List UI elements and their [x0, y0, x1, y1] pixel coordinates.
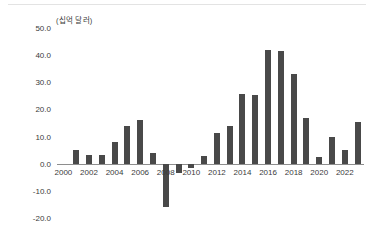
bar-2016 — [265, 50, 271, 164]
x-axis-tick-label: 2014 — [234, 168, 252, 177]
x-axis-tick-label: 2012 — [208, 168, 226, 177]
chart-figure: (십억 달러) 50.040.030.020.010.00.0-10.0-20.… — [0, 0, 374, 252]
bar-2011 — [201, 156, 207, 164]
x-axis-tick-label: 2022 — [336, 168, 354, 177]
plot-area: 50.040.030.020.010.00.0-10.0-20.02000200… — [57, 28, 364, 218]
x-axis-tick-label: 2008 — [157, 168, 175, 177]
y-axis-tick-label: 50.0 — [35, 24, 51, 33]
bar-2019 — [303, 118, 309, 164]
x-axis-tick-label: 2018 — [285, 168, 303, 177]
bar-2006 — [137, 120, 143, 163]
bar-2007 — [150, 153, 156, 163]
bar-2003 — [99, 155, 105, 164]
bar-2014 — [239, 94, 245, 164]
x-axis-tick-label: 2000 — [54, 168, 72, 177]
x-axis-tick-label: 2010 — [182, 168, 200, 177]
y-axis-tick-label: -10.0 — [33, 186, 51, 195]
y-axis-tick-label: -20.0 — [33, 214, 51, 223]
bar-2017 — [278, 51, 284, 164]
x-axis-tick-label: 2004 — [106, 168, 124, 177]
bar-2022 — [342, 150, 348, 164]
bar-2002 — [86, 155, 92, 164]
top-divider — [8, 4, 366, 5]
bar-2021 — [329, 137, 335, 164]
y-axis-tick-label: 10.0 — [35, 132, 51, 141]
y-axis-tick-label: 20.0 — [35, 105, 51, 114]
y-axis-tick-label: 0.0 — [40, 159, 51, 168]
bar-2020 — [316, 157, 322, 163]
bar-2013 — [227, 126, 233, 163]
x-axis-tick-label: 2002 — [80, 168, 98, 177]
bar-series — [57, 28, 364, 218]
bar-2005 — [124, 126, 130, 163]
y-axis-tick-label: 30.0 — [35, 78, 51, 87]
y-axis-unit-label: (십억 달러) — [56, 14, 92, 25]
bar-2023 — [355, 122, 361, 164]
x-axis-tick-label: 2006 — [131, 168, 149, 177]
bar-2015 — [252, 95, 258, 164]
bar-2018 — [291, 74, 297, 164]
bar-2009 — [176, 164, 182, 174]
bar-2004 — [112, 142, 118, 164]
y-axis-tick-label: 40.0 — [35, 51, 51, 60]
x-axis-tick-label: 2020 — [310, 168, 328, 177]
bar-2012 — [214, 133, 220, 164]
x-axis-tick-label: 2016 — [259, 168, 277, 177]
bar-2001 — [73, 150, 79, 164]
